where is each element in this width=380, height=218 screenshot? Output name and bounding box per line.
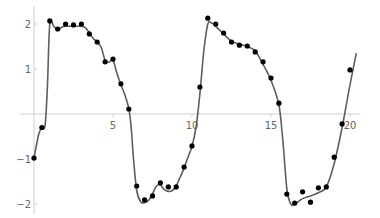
data-points [31, 16, 352, 206]
data-point [63, 21, 68, 26]
data-point [166, 184, 171, 189]
data-point [253, 49, 258, 54]
data-point [268, 75, 273, 80]
data-point [182, 165, 187, 170]
x-tick-label: 20 [344, 120, 357, 131]
data-point [324, 184, 329, 189]
x-tick-label: 5 [110, 120, 116, 131]
data-point [39, 125, 44, 130]
data-point [237, 43, 242, 48]
data-point [292, 201, 297, 206]
data-point [158, 180, 163, 185]
data-point [150, 193, 155, 198]
data-point [340, 121, 345, 126]
data-point [213, 21, 218, 26]
data-point [284, 192, 289, 197]
y-tick-label: 2 [25, 19, 31, 30]
data-point [197, 84, 202, 89]
data-point [79, 21, 84, 26]
data-point [261, 59, 266, 64]
data-point [55, 26, 60, 31]
data-point [174, 184, 179, 189]
data-point [316, 185, 321, 190]
data-point [134, 183, 139, 188]
data-point [245, 43, 250, 48]
y-tick-label: −2 [16, 199, 31, 210]
data-point [126, 106, 131, 111]
data-point [142, 197, 147, 202]
data-point [110, 57, 115, 62]
chart: 5101520 −2−112 [0, 0, 380, 218]
data-point [308, 200, 313, 205]
data-point [103, 59, 108, 64]
y-tick-label: 1 [25, 64, 31, 75]
x-tick-label: 15 [265, 120, 278, 131]
data-point [205, 16, 210, 21]
x-ticks: 5101520 [110, 114, 357, 131]
fitted-curve [34, 20, 356, 206]
data-point [118, 81, 123, 86]
data-point [276, 101, 281, 106]
data-point [95, 39, 100, 44]
axes [20, 6, 360, 214]
data-point [332, 155, 337, 160]
data-point [221, 30, 226, 35]
data-point [47, 18, 52, 23]
data-point [347, 67, 352, 72]
data-point [71, 22, 76, 27]
data-point [229, 39, 234, 44]
data-point [87, 31, 92, 36]
data-point [31, 156, 36, 161]
y-tick-label: −1 [16, 154, 31, 165]
data-point [300, 189, 305, 194]
data-point [189, 143, 194, 148]
